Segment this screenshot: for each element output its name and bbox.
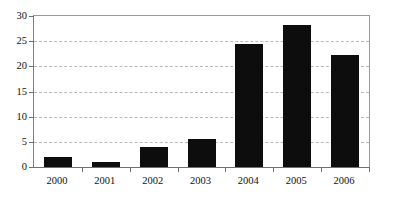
bar-series bbox=[34, 16, 369, 167]
y-axis-label: 5 bbox=[22, 137, 27, 148]
bar bbox=[44, 157, 72, 167]
bar bbox=[331, 55, 359, 167]
bar bbox=[283, 25, 311, 167]
x-axis-label: 2002 bbox=[142, 176, 163, 187]
bar bbox=[188, 139, 216, 167]
bar bbox=[92, 162, 120, 167]
x-axis-tick bbox=[273, 167, 274, 172]
x-axis-tick bbox=[321, 167, 322, 172]
bar bbox=[235, 44, 263, 167]
plot-area: 051015202530 bbox=[33, 15, 370, 168]
y-axis-label: 25 bbox=[17, 36, 28, 47]
x-axis-label: 2004 bbox=[238, 176, 259, 187]
x-axis-label: 2003 bbox=[190, 176, 211, 187]
y-axis-label: 15 bbox=[17, 86, 28, 97]
x-axis-label: 2006 bbox=[334, 176, 355, 187]
x-axis-label: 2000 bbox=[46, 176, 67, 187]
bar-chart: 051015202530 200020012002200320042005200… bbox=[0, 0, 394, 200]
bar bbox=[140, 147, 168, 167]
y-axis-label: 10 bbox=[17, 111, 28, 122]
x-axis-tick bbox=[130, 167, 131, 172]
y-axis-tick bbox=[29, 167, 34, 168]
x-axis-tick bbox=[82, 167, 83, 172]
y-axis-label: 30 bbox=[17, 11, 28, 22]
y-axis-label: 20 bbox=[17, 61, 28, 72]
x-axis-tick bbox=[178, 167, 179, 172]
x-axis-tick bbox=[369, 167, 370, 172]
x-axis-label: 2005 bbox=[286, 176, 307, 187]
x-axis-tick bbox=[225, 167, 226, 172]
x-axis-label: 2001 bbox=[94, 176, 115, 187]
y-axis-label: 0 bbox=[22, 162, 27, 173]
